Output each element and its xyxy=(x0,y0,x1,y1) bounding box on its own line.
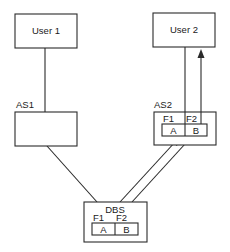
dbs-cell-b: B xyxy=(123,224,129,235)
user2-label: User 2 xyxy=(170,24,198,35)
as2-cell-b: B xyxy=(193,125,199,136)
edge-dbs-as2-b xyxy=(132,144,185,202)
as1-label: AS1 xyxy=(16,99,34,110)
node-user1: User 1 xyxy=(15,14,77,48)
dbs-field-f1: F1 xyxy=(93,212,104,223)
as2-field-f1: F1 xyxy=(163,113,174,124)
as2-label: AS2 xyxy=(154,99,172,110)
user1-label: User 1 xyxy=(32,25,60,36)
node-as1: AS1 xyxy=(15,99,77,146)
dbs-cell-a: A xyxy=(100,224,107,235)
edge-dbs-as2-a xyxy=(120,141,176,202)
as2-cell-a: A xyxy=(170,125,177,136)
dbs-field-f2: F2 xyxy=(116,212,127,223)
node-user2: User 2 xyxy=(153,13,215,47)
diagram-canvas: User 1 AS1 User 2 AS2 F1 F2 A B DBS F1 F… xyxy=(0,0,230,252)
as2-field-f2: F2 xyxy=(186,113,197,124)
edge-as1-dbs xyxy=(47,146,97,202)
arrowhead-up-icon xyxy=(198,49,205,58)
node-dbs: DBS F1 F2 A B xyxy=(84,202,147,242)
